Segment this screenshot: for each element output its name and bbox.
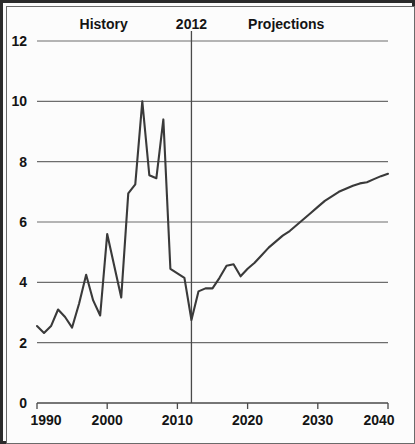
y-tick-label-8: 8 [19,154,27,170]
y-tick-label-2: 2 [19,335,27,351]
chart-svg: 024681012199020002010202020302040History… [0,0,415,444]
x-tick-label-2020: 2020 [232,412,263,428]
series-line-value [37,101,388,333]
x-tick-label-2030: 2030 [302,412,333,428]
x-tick-label-1990: 1990 [30,412,61,428]
y-tick-label-6: 6 [19,214,27,230]
chart-figure: 024681012199020002010202020302040History… [0,0,415,444]
projections-label: Projections [248,16,324,32]
y-tick-label-10: 10 [11,93,27,109]
x-tick-label-2010: 2010 [162,412,193,428]
projection-year-label: 2012 [176,16,207,32]
y-tick-label-12: 12 [11,33,27,49]
y-tick-label-4: 4 [19,274,27,290]
history-label: History [80,16,128,32]
y-tick-label-0: 0 [19,395,27,411]
x-tick-label-2040: 2040 [363,412,394,428]
x-tick-label-2000: 2000 [92,412,123,428]
